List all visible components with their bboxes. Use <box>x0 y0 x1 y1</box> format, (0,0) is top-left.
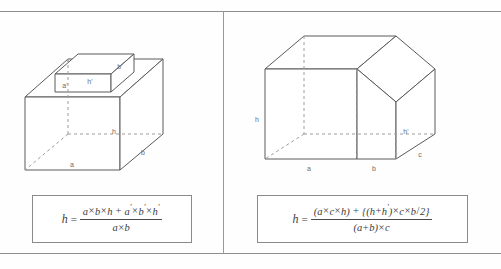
label-a: a <box>70 161 74 168</box>
equation-lhs: h <box>62 212 70 227</box>
page-root: a' h' b' h a b h = a×b×h + a'×b'×h' a×b <box>0 0 501 269</box>
label-b: b <box>141 149 145 156</box>
equation-fraction: a×b×h + a'×b'×h' a×b <box>80 203 163 236</box>
fraction-bar <box>311 219 433 220</box>
equation-numerator: a×b×h + a'×b'×h' <box>80 203 163 219</box>
fraction-bar <box>80 219 163 220</box>
sloped-roof-prism-diagram: h h' a b c <box>224 12 501 187</box>
equation-lhs: h <box>293 212 301 227</box>
label-a-prime: a' <box>62 82 68 89</box>
panel-right: h h' a b c h = (a×c×h) + {(h+h')×c×b/2} … <box>224 12 501 253</box>
equation-relation: = <box>301 213 311 225</box>
equation-denominator: (a+b)×c <box>351 221 393 235</box>
stepped-box-diagram: a' h' b' h a b <box>0 12 223 187</box>
label-b-prime: b' <box>117 63 123 70</box>
label-c: c <box>418 151 422 158</box>
equation-relation: = <box>70 213 80 225</box>
prism-front-face <box>265 69 357 159</box>
label-h-prime: h' <box>403 128 409 135</box>
label-b: b <box>372 165 376 172</box>
stepped-box-formula-box: h = a×b×h + a'×b'×h' a×b <box>32 195 192 243</box>
bottom-border-rule <box>0 253 501 254</box>
sloped-roof-prism-equation: h = (a×c×h) + {(h+h')×c×b/2} (a+b)×c <box>293 203 433 236</box>
sloped-roof-prism-formula-box: h = (a×c×h) + {(h+h')×c×b/2} (a+b)×c <box>257 195 468 243</box>
label-h-prime: h' <box>87 78 93 85</box>
equation-fraction: (a×c×h) + {(h+h')×c×b/2} (a+b)×c <box>311 203 433 236</box>
label-h: h <box>112 128 116 135</box>
label-h: h <box>255 116 259 123</box>
stepped-box-equation: h = a×b×h + a'×b'×h' a×b <box>62 203 163 236</box>
equation-numerator: (a×c×h) + {(h+h')×c×b/2} <box>311 203 433 219</box>
label-a: a <box>307 165 311 172</box>
panel-left: a' h' b' h a b h = a×b×h + a'×b'×h' a×b <box>0 12 223 253</box>
equation-denominator: a×b <box>109 221 132 235</box>
